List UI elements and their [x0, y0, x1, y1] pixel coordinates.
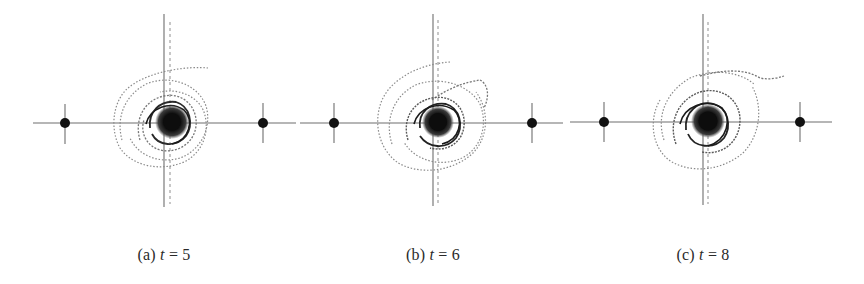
panel-c [570, 14, 832, 205]
panel-b [300, 14, 563, 206]
caption-a-label: (a) [137, 246, 155, 263]
right-dot [527, 118, 537, 128]
panel-a-spiral [114, 68, 208, 167]
vortex-figure: (a) t = 5 (b) t = 6 (c) t = 8 [0, 0, 864, 284]
caption-b: (b) t = 6 [406, 246, 460, 264]
left-dot [599, 117, 609, 127]
left-dot [329, 118, 339, 128]
caption-c-equals: = [708, 246, 717, 263]
vortex-core-inner [699, 112, 718, 131]
caption-a-variable: t [160, 246, 165, 263]
panel-a [33, 14, 296, 207]
caption-b-equals: = [438, 246, 447, 263]
right-dot [795, 117, 805, 127]
caption-c-value: 8 [721, 246, 729, 263]
caption-c-label: (c) [676, 246, 694, 263]
caption-b-value: 6 [452, 246, 460, 263]
caption-b-label: (b) [406, 246, 425, 263]
caption-a-value: 5 [182, 246, 190, 263]
caption-a: (a) t = 5 [137, 246, 190, 264]
vortex-core-inner [163, 113, 181, 131]
left-dot [60, 118, 70, 128]
right-dot [258, 118, 268, 128]
caption-c: (c) t = 8 [676, 246, 729, 264]
vortex-core-inner [429, 113, 447, 131]
caption-a-equals: = [169, 246, 178, 263]
figure-canvas [0, 0, 864, 284]
caption-b-variable: t [429, 246, 434, 263]
caption-c-variable: t [699, 246, 704, 263]
panel-c-spiral [653, 71, 784, 169]
